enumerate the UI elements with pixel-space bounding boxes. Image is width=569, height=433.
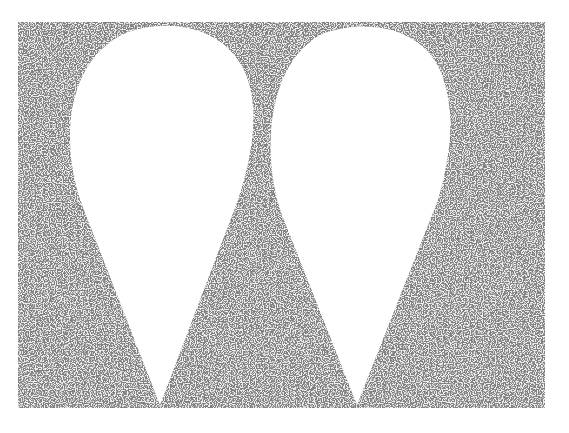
stipple-illustration	[0, 0, 569, 433]
